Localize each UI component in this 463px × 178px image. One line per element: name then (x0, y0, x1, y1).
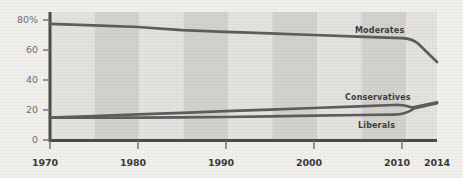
line-chart: 80% 60 40 20 0 1970 1980 1990 2000 2010 … (0, 0, 463, 178)
y-tick-label-40: 40 (8, 74, 38, 85)
x-tick-label-1970: 1970 (32, 157, 58, 168)
x-tick-label-1990: 1990 (208, 157, 234, 168)
x-tick-label-1980: 1980 (120, 157, 146, 168)
series-label-conservatives: Conservatives (345, 93, 411, 102)
y-tick-label-60: 60 (8, 44, 38, 55)
x-tick-label-2014: 2014 (424, 157, 450, 168)
x-tick-label-2000: 2000 (296, 157, 322, 168)
series-label-liberals: Liberals (358, 121, 395, 130)
y-tick-label-20: 20 (8, 104, 38, 115)
y-tick-label-80: 80% (8, 14, 38, 25)
y-tick-label-0: 0 (8, 134, 38, 145)
x-tick-label-2010: 2010 (384, 157, 410, 168)
series-label-moderates: Moderates (355, 26, 404, 35)
